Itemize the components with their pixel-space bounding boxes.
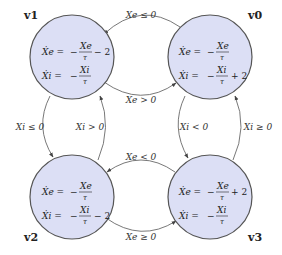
svg-text:Ẋi =: Ẋi = [41,210,62,221]
node-v1: v1 Ẋe = − Xe τ − 2 Ẋi = − Xi τ [23,9,114,99]
svg-text:τ: τ [220,54,224,62]
svg-text:Ẋi =: Ẋi = [178,210,199,221]
svg-text:v3: v3 [247,231,262,244]
svg-text:Ẋi =: Ẋi = [41,70,62,81]
svg-text:Xe: Xe [216,181,229,191]
svg-text:−: − [70,47,78,57]
state-diagram: Xe ≤ 0 Xe > 0 Xi ≤ 0 Xi > 0 Xi < 0 Xi ≥ … [0,0,282,255]
svg-text:τ: τ [83,54,87,62]
edge-v2-v3 [106,218,176,231]
svg-text:v0: v0 [247,9,262,22]
svg-text:−: − [207,211,215,221]
svg-text:τ: τ [220,218,224,226]
svg-text:−: − [207,47,215,57]
svg-text:−: − [70,211,78,221]
svg-text:−: − [207,71,215,81]
svg-text:+ 2: + 2 [231,187,247,197]
edge-label-v2-v1: Xi > 0 [75,122,105,132]
node-v2: v2 Ẋe = − Xe τ Ẋi = − Xi τ − 2 [23,155,114,244]
svg-text:−: − [207,187,215,197]
svg-text:Ẋe =: Ẋe = [41,186,64,197]
svg-text:Xi: Xi [216,205,226,215]
edge-label-v2-v3: Xe ≥ 0 [125,232,157,242]
svg-text:τ: τ [220,78,224,86]
edge-label-v1-v2: Xi ≤ 0 [15,122,45,132]
svg-text:Xe: Xe [79,181,92,191]
svg-text:−: − [70,187,78,197]
svg-text:+ 2: + 2 [231,71,247,81]
edge-label-v0-v1: Xe ≤ 0 [125,10,157,20]
svg-text:Ẋi =: Ẋi = [178,70,199,81]
svg-text:Xi: Xi [79,205,89,215]
svg-text:Ẋe =: Ẋe = [41,46,64,57]
svg-text:− 2: − 2 [94,47,110,57]
svg-text:Xe: Xe [79,41,92,51]
svg-text:Ẋe =: Ẋe = [178,186,201,197]
edge-label-v1-v0: Xe > 0 [125,95,157,105]
svg-text:τ: τ [83,194,87,202]
svg-text:Xi: Xi [216,65,226,75]
svg-text:− 2: − 2 [94,211,110,221]
edge-v1-v0 [104,82,176,95]
svg-text:Xe: Xe [216,41,229,51]
svg-text:τ: τ [83,218,87,226]
node-v3: v3 Ẋe = − Xe τ + 2 Ẋi = − Xi τ [168,155,262,244]
node-v0: v0 Ẋe = − Xe τ Ẋi = − Xi τ + 2 [168,9,262,99]
svg-text:τ: τ [83,78,87,86]
edge-label-v0-v3: Xi < 0 [179,122,209,132]
edge-label-v3-v0: Xi ≥ 0 [243,122,273,132]
edge-v3-v0 [233,96,241,160]
svg-text:v1: v1 [23,9,38,22]
svg-text:Ẋe =: Ẋe = [178,46,201,57]
edge-label-v3-v2: Xe < 0 [125,152,157,162]
svg-text:v2: v2 [23,231,38,244]
svg-text:τ: τ [220,194,224,202]
svg-text:−: − [70,71,78,81]
svg-text:Xi: Xi [79,65,89,75]
edge-v1-v2 [43,96,53,157]
